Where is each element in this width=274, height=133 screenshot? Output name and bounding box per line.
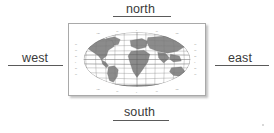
direction-rule-north: [113, 16, 171, 17]
direction-rule-east: [215, 65, 269, 66]
svg-text:90: 90: [75, 43, 77, 45]
direction-label-west: west: [22, 52, 48, 65]
svg-text:60: 60: [156, 90, 158, 92]
svg-text:120: 120: [175, 88, 178, 90]
svg-text:30: 30: [75, 67, 77, 69]
direction-label-north: north: [126, 3, 155, 16]
world-map-image: 90 60 30 0 30 60 90 60 30 0 30 60 120 60…: [69, 24, 205, 95]
svg-text:60: 60: [75, 49, 77, 51]
svg-text:0: 0: [75, 61, 76, 63]
svg-text:0: 0: [136, 29, 137, 31]
svg-text:60: 60: [116, 30, 118, 32]
svg-text:120: 120: [175, 32, 178, 34]
svg-text:30: 30: [194, 55, 196, 57]
world-map-frame: 90 60 30 0 30 60 90 60 30 0 30 60 120 60…: [68, 23, 206, 96]
svg-text:120: 120: [97, 32, 100, 34]
svg-text:30: 30: [194, 67, 196, 69]
image-artifact-speck: [262, 124, 264, 126]
direction-rule-south: [113, 120, 169, 121]
svg-text:0: 0: [136, 91, 137, 93]
svg-text:60: 60: [156, 30, 158, 32]
svg-text:60: 60: [116, 90, 118, 92]
compass-direction-diagram: north west east south 90 60 30 0 30 60 9…: [0, 0, 274, 133]
svg-text:0: 0: [194, 61, 195, 63]
direction-label-east: east: [228, 52, 252, 65]
svg-text:90: 90: [194, 43, 196, 45]
svg-text:60: 60: [194, 49, 196, 51]
svg-text:30: 30: [75, 55, 77, 57]
svg-text:60: 60: [194, 73, 196, 75]
direction-label-south: south: [124, 106, 155, 119]
svg-text:60: 60: [75, 73, 77, 75]
svg-text:120: 120: [97, 88, 100, 90]
direction-rule-west: [8, 65, 63, 66]
